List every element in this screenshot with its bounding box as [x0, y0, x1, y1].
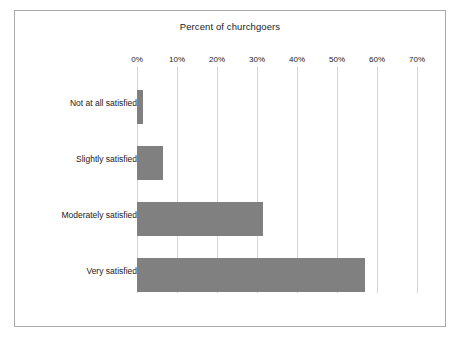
- category-label-wrap: Moderately satisfied: [23, 191, 137, 247]
- bar-row: Moderately satisfied: [15, 191, 445, 247]
- category-label-wrap: Very satisfied: [23, 247, 137, 303]
- bar: [137, 90, 143, 124]
- category-label-wrap: Not at all satisfied: [23, 79, 137, 135]
- bar: [137, 202, 263, 236]
- category-label: Slightly satisfied: [29, 154, 137, 164]
- category-label: Not at all satisfied: [29, 98, 137, 108]
- bar: [137, 146, 163, 180]
- category-label: Very satisfied: [29, 266, 137, 276]
- chart-figure-frame: Percent of churchgoers 0%10%20%30%40%50%…: [14, 10, 446, 327]
- bar-row: Slightly satisfied: [15, 135, 445, 191]
- plot-area: Not at all satisfiedSlightly satisfiedMo…: [15, 69, 445, 293]
- x-axis-tick-label: 70%: [397, 55, 437, 64]
- x-axis-tick-label: 0%: [117, 55, 157, 64]
- x-axis-tick-label: 40%: [277, 55, 317, 64]
- bar-row: Not at all satisfied: [15, 79, 445, 135]
- x-axis-tick-label: 30%: [237, 55, 277, 64]
- x-axis-tick-label: 20%: [197, 55, 237, 64]
- x-axis-tick-label: 60%: [357, 55, 397, 64]
- bar: [137, 258, 365, 292]
- bar-row: Very satisfied: [15, 247, 445, 303]
- x-axis-tick-label: 50%: [317, 55, 357, 64]
- x-axis-tick-label: 10%: [157, 55, 197, 64]
- category-label: Moderately satisfied: [29, 210, 137, 220]
- category-label-wrap: Slightly satisfied: [23, 135, 137, 191]
